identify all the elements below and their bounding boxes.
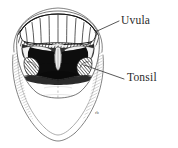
anatomy-figure: rb Uvula Tonsil	[0, 0, 178, 148]
tongue	[19, 75, 96, 127]
label-tonsil: Tonsil	[127, 72, 157, 84]
artist-mark: rb	[95, 110, 99, 115]
leader-line-uvula	[95, 21, 119, 32]
label-uvula: Uvula	[121, 15, 150, 27]
